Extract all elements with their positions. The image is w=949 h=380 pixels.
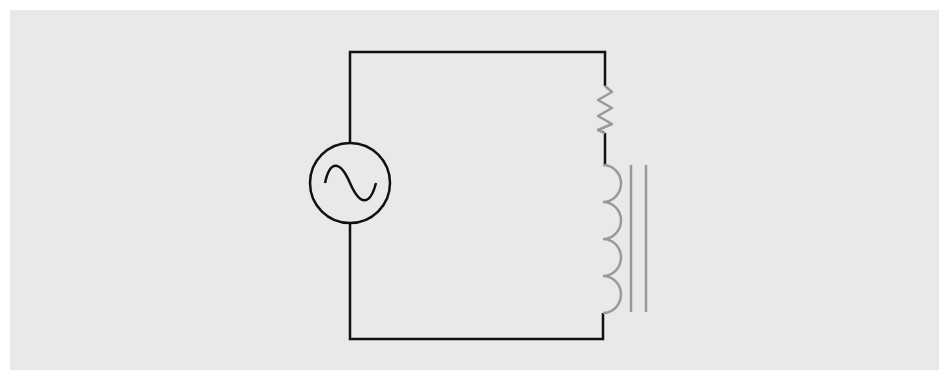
circuit-diagram [0, 0, 949, 380]
wire-top [350, 52, 605, 143]
ac-source-icon [310, 143, 390, 223]
inductor-icon [603, 165, 621, 313]
wire-bottom [350, 223, 603, 339]
resistor-icon [598, 86, 612, 133]
inductor-core-icon [631, 165, 646, 312]
